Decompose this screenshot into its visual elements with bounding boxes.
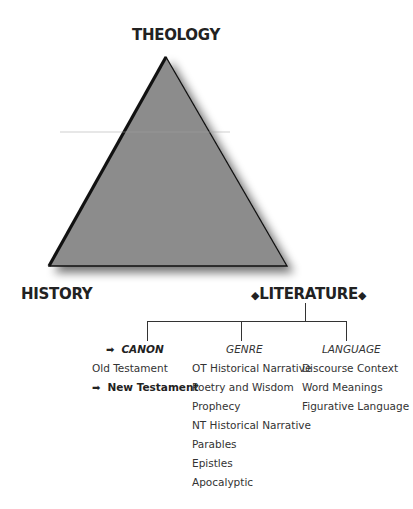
- branch-heading-canon: ➡CANON: [106, 340, 198, 359]
- diamond-icon: ◆: [251, 289, 259, 302]
- list-item: NT Historical Narrative: [192, 416, 311, 435]
- branch-heading-genre: GENRE: [226, 340, 311, 359]
- list-item: Apocalyptic: [192, 473, 311, 492]
- list-item-label: New Testament: [107, 381, 198, 393]
- branch-language: LANGUAGE Discourse Context Word Meanings…: [302, 340, 409, 416]
- label-literature-text: LITERATURE: [259, 285, 358, 303]
- list-item: Epistles: [192, 454, 311, 473]
- branch-genre: GENRE OT Historical Narrative Poetry and…: [192, 340, 311, 492]
- list-item: Prophecy: [192, 397, 311, 416]
- connector-horizontal: [147, 321, 347, 322]
- list-item: Word Meanings: [302, 378, 409, 397]
- branch-heading-language: LANGUAGE: [322, 340, 409, 359]
- label-theology: THEOLOGY: [132, 26, 220, 44]
- connector-genre: [241, 321, 242, 341]
- connector-trunk: [305, 303, 306, 321]
- arrow-right-icon: ➡: [92, 382, 100, 393]
- label-history: HISTORY: [21, 285, 92, 303]
- connector-language: [346, 321, 347, 341]
- list-item: Poetry and Wisdom: [192, 378, 311, 397]
- list-item: Parables: [192, 435, 311, 454]
- list-item: Discourse Context: [302, 359, 409, 378]
- list-item: Figurative Language: [302, 397, 409, 416]
- connector-canon: [147, 321, 148, 341]
- diamond-icon: ◆: [358, 289, 366, 302]
- list-item-highlighted: ➡New Testament: [92, 378, 198, 397]
- arrow-right-icon: ➡: [106, 344, 114, 355]
- list-item: Old Testament: [92, 359, 198, 378]
- list-item: OT Historical Narrative: [192, 359, 311, 378]
- branch-heading-canon-text: CANON: [121, 343, 163, 355]
- branch-canon: ➡CANON Old Testament ➡New Testament: [92, 340, 198, 397]
- triangle-shape: [0, 0, 413, 300]
- label-literature: ◆LITERATURE◆: [251, 285, 366, 303]
